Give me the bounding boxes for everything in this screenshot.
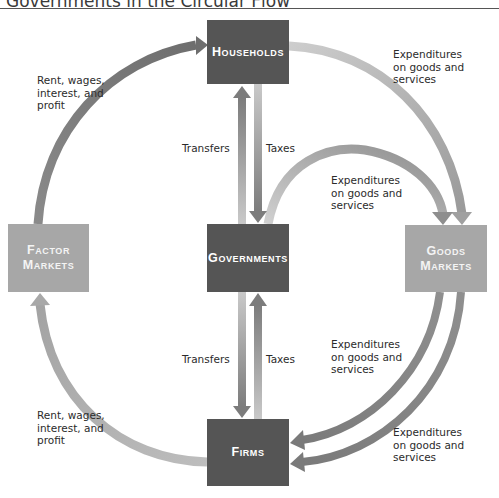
firms-label: Firms	[231, 445, 264, 460]
gov-expenditures-label: Expenditures on goods and services	[331, 174, 402, 212]
factor-income-bottom-label: Rent, wages, interest, and profit	[37, 409, 105, 447]
factor-markets-node: Factor Markets	[8, 224, 89, 292]
hh-expenditures-label: Expenditures on goods and services	[393, 48, 464, 86]
goods-markets-label: Goods Markets	[420, 244, 472, 274]
factor-markets-label: Factor Markets	[23, 243, 75, 273]
households-label: Households	[212, 45, 284, 60]
taxes-bottom-label: Taxes	[266, 353, 295, 366]
taxes-top-label: Taxes	[266, 142, 295, 155]
factor-to-households-arrow	[38, 36, 208, 224]
taxes-from-households-arrow	[249, 84, 267, 223]
factor-income-top-label: Rent, wages, interest, and profit	[37, 74, 105, 112]
transfers-bottom-label: Transfers	[182, 353, 230, 366]
transfers-to-firms-arrow	[233, 292, 251, 418]
goods-markets-node: Goods Markets	[405, 225, 487, 292]
governments-node: Governments	[207, 224, 289, 292]
transfers-top-label: Transfers	[182, 142, 230, 155]
goods-to-firms-label-1: Expenditures on goods and services	[331, 338, 402, 376]
transfers-to-households-arrow	[233, 86, 251, 224]
households-node: Households	[207, 20, 289, 84]
goods-to-firms-label-2: Expenditures on goods and services	[393, 426, 464, 464]
taxes-from-firms-arrow	[249, 293, 267, 419]
firms-node: Firms	[207, 419, 289, 486]
governments-label: Governments	[208, 251, 288, 266]
